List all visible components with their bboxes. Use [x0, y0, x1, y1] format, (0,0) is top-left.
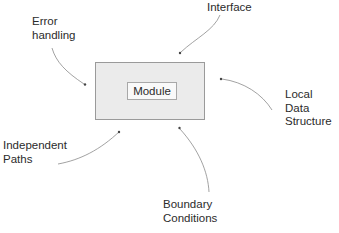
label-boundary-conditions: Boundary Conditions [163, 198, 217, 225]
label-local-data-structure: Local Data Structure [285, 88, 332, 129]
module-label-box: Module [127, 82, 177, 100]
label-error-handling: Error handling [32, 15, 75, 42]
label-independent-paths: Independent Paths [3, 139, 67, 166]
label-interface: Interface [207, 1, 252, 15]
module-test-diagram: Module Error handling Interface Local Da… [0, 0, 339, 233]
